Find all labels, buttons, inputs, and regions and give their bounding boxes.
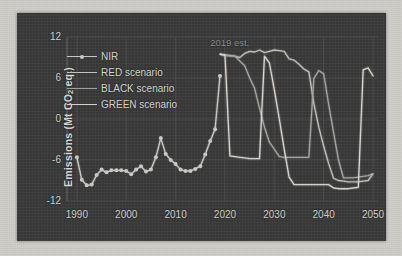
legend-label: RED scenario — [101, 67, 163, 78]
series-marker — [90, 183, 94, 187]
series-marker — [213, 127, 217, 131]
legend-item[interactable]: GREEN scenario — [67, 96, 177, 112]
series-marker — [169, 158, 173, 162]
x-tick-label: 2040 — [302, 209, 346, 220]
series-marker — [129, 172, 133, 176]
x-tick-label: 1990 — [55, 209, 99, 220]
series-marker — [174, 162, 178, 166]
x-tick-label: 2050 — [351, 209, 395, 220]
legend-swatch — [67, 72, 97, 73]
series-marker — [179, 168, 183, 172]
y-tick-label: -12 — [27, 195, 61, 206]
series-marker — [85, 183, 89, 187]
legend-swatch — [67, 56, 97, 57]
series-marker — [119, 168, 123, 172]
series-marker — [124, 169, 128, 173]
plot-area: Emissions (Mt CO2 eq.) 1260-6-12 1990200… — [17, 13, 386, 241]
series-marker — [80, 178, 84, 182]
legend-label: GREEN scenario — [101, 99, 177, 110]
series-glow — [220, 54, 373, 189]
series-marker — [105, 170, 109, 174]
series-marker — [198, 164, 202, 168]
y-tick-label: -6 — [27, 154, 61, 165]
series-marker — [193, 167, 197, 171]
series-marker — [203, 153, 207, 157]
legend-item[interactable]: RED scenario — [67, 64, 177, 80]
chart-legend: NIRRED scenarioBLACK scenarioGREEN scena… — [67, 48, 177, 112]
series-marker — [159, 136, 163, 140]
legend-label: NIR — [101, 51, 118, 62]
series-marker — [149, 168, 153, 172]
y-tick-label: 6 — [27, 72, 61, 83]
series-marker — [218, 74, 222, 78]
series-marker — [184, 169, 188, 173]
x-tick-label: 2020 — [203, 209, 247, 220]
legend-marker-icon — [80, 55, 84, 59]
legend-swatch — [67, 104, 97, 105]
series-marker — [188, 169, 192, 173]
y-tick-label: 0 — [27, 113, 61, 124]
y-tick-label: 12 — [27, 31, 61, 42]
legend-swatch — [67, 88, 97, 89]
series-marker — [208, 139, 212, 143]
series-marker — [144, 170, 148, 174]
x-tick-label: 2010 — [154, 209, 198, 220]
series-marker — [100, 168, 104, 172]
chart-screenshot: Emissions (Mt CO2 eq.) 1260-6-12 1990200… — [0, 0, 402, 256]
x-tick-label: 2030 — [252, 209, 296, 220]
chart-annotation: 2019 est. — [210, 37, 249, 48]
series-marker — [154, 155, 158, 159]
series-marker — [75, 155, 79, 159]
series-marker — [164, 152, 168, 156]
series-marker — [134, 168, 138, 172]
series-line — [220, 50, 373, 182]
legend-label: BLACK scenario — [101, 83, 174, 94]
legend-item[interactable]: NIR — [67, 48, 177, 64]
x-tick-label: 2000 — [104, 209, 148, 220]
series-glow — [220, 50, 373, 182]
chart-panel: Emissions (Mt CO2 eq.) 1260-6-12 1990200… — [17, 13, 386, 241]
series-marker — [95, 173, 99, 177]
series-line — [220, 54, 373, 189]
series-marker — [139, 164, 143, 168]
series-marker — [109, 168, 113, 172]
legend-item[interactable]: BLACK scenario — [67, 80, 177, 96]
series-marker — [114, 168, 118, 172]
